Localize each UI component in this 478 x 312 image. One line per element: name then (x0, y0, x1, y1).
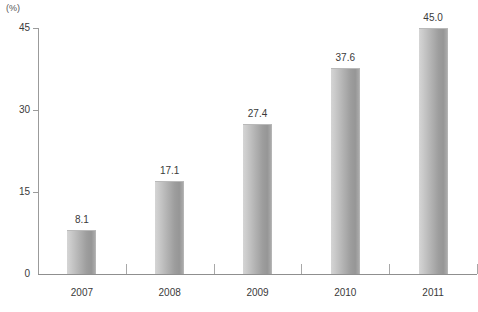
y-axis-tick-label: 30 (2, 105, 30, 115)
bar-value-label: 8.1 (52, 215, 112, 225)
x-axis-line (38, 274, 477, 275)
bar-chart: (%) 0153045 8.117.127.437.645.0 20072008… (0, 0, 478, 312)
x-axis-category-label: 2008 (140, 288, 200, 298)
bar (331, 68, 360, 274)
bar (243, 124, 272, 274)
bar-value-label: 17.1 (140, 166, 200, 176)
y-axis-tick-label: 45 (2, 23, 30, 33)
bar (67, 230, 96, 274)
bar-value-label: 27.4 (228, 109, 288, 119)
bar (155, 181, 184, 274)
bars-container (38, 28, 477, 274)
bar (419, 28, 448, 274)
x-axis-category-label: 2010 (315, 288, 375, 298)
y-axis-tick-label: 15 (2, 187, 30, 197)
x-axis-category-label: 2011 (403, 288, 463, 298)
y-axis-tick-label: 0 (2, 269, 30, 279)
y-axis-tick-labels: 0153045 (0, 0, 30, 312)
x-axis-category-label: 2009 (228, 288, 288, 298)
x-axis-category-label: 2007 (52, 288, 112, 298)
bar-value-label: 45.0 (403, 13, 463, 23)
bar-value-label: 37.6 (315, 53, 375, 63)
